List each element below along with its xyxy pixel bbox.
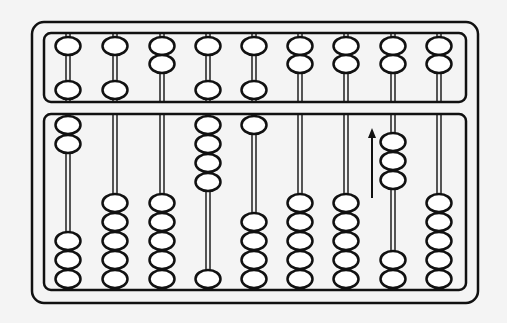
lower-bead [381,251,406,269]
lower-bead [288,213,313,231]
lower-bead [288,194,313,212]
upper-bead [334,37,359,55]
lower-bead [381,152,406,170]
lower-bead [196,173,221,191]
lower-bead [242,270,267,288]
upper-bead [288,37,313,55]
lower-bead [242,213,267,231]
lower-bead [334,194,359,212]
up-arrow-icon [368,128,376,198]
lower-bead [334,251,359,269]
lower-bead [242,251,267,269]
upper-bead [242,37,267,55]
lower-bead [196,135,221,153]
lower-bead [56,251,81,269]
lower-bead [103,270,128,288]
lower-bead [150,194,175,212]
upper-bead [56,37,81,55]
lower-bead [150,270,175,288]
upper-bead [381,55,406,73]
upper-bead [150,37,175,55]
upper-bead [103,81,128,99]
lower-bead [150,232,175,250]
upper-bead [196,81,221,99]
lower-bead [427,270,452,288]
lower-bead [103,213,128,231]
lower-bead [427,232,452,250]
lower-bead [242,232,267,250]
lower-bead [334,270,359,288]
lower-bead [196,154,221,172]
upper-bead [196,37,221,55]
lower-bead [288,232,313,250]
upper-bead [334,55,359,73]
lower-bead [288,251,313,269]
abacus-svg [0,0,507,323]
lower-bead [196,116,221,134]
lower-bead [56,270,81,288]
lower-bead [427,251,452,269]
lower-bead [103,194,128,212]
upper-bead [150,55,175,73]
abacus-beads [56,37,452,288]
upper-bead [427,37,452,55]
lower-bead [103,232,128,250]
lower-bead [427,213,452,231]
lower-bead [56,116,81,134]
lower-bead [381,133,406,151]
lower-bead [334,213,359,231]
upper-bead [427,55,452,73]
lower-bead [242,116,267,134]
lower-bead [427,194,452,212]
lower-bead [381,171,406,189]
lower-bead [150,251,175,269]
upper-bead [381,37,406,55]
arrow-head [368,128,376,138]
lower-bead [103,251,128,269]
lower-bead [196,270,221,288]
upper-bead [56,81,81,99]
upper-bead [288,55,313,73]
lower-bead [150,213,175,231]
lower-bead [381,270,406,288]
upper-bead [242,81,267,99]
abacus-diagram [0,0,507,323]
lower-bead [288,270,313,288]
lower-bead [56,135,81,153]
lower-bead [56,232,81,250]
lower-bead [334,232,359,250]
upper-bead [103,37,128,55]
